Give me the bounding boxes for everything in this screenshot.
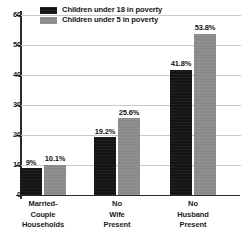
bar-under18-group2	[94, 137, 116, 195]
y-tick-label: 30	[7, 101, 21, 109]
legend: Children under 18 in poverty Children un…	[40, 6, 162, 26]
legend-swatch-icon-dark	[40, 7, 57, 14]
category-label-line: Households	[7, 220, 79, 231]
bar-under18-group1	[20, 168, 42, 195]
y-tick-label: 50	[7, 41, 21, 49]
bar-value-label: 41.8%	[171, 60, 191, 68]
category-label-line: Present	[81, 220, 153, 231]
bar-value-label: 25.6%	[119, 109, 139, 117]
bar-value-label: 19.2%	[95, 128, 115, 136]
y-tick-label: 0	[7, 191, 21, 199]
category-label-1: Married-CoupleHouseholds	[7, 199, 79, 231]
category-label-line: No	[157, 199, 229, 210]
category-label-line: Present	[157, 220, 229, 231]
legend-label-children-under-5: Children under 5 in poverty	[62, 16, 158, 25]
category-label-2: NoWifePresent	[81, 199, 153, 231]
legend-swatch-icon-light	[40, 17, 57, 24]
category-label-line: Married-	[7, 199, 79, 210]
bar-under5-group2	[118, 118, 140, 195]
category-label-line: Wife	[81, 210, 153, 221]
y-tick-label: 20	[7, 131, 21, 139]
category-label-line: No	[81, 199, 153, 210]
plot-area: 9%10.1%19.2%25.6%41.8%53.8%	[21, 15, 241, 195]
legend-item-children-under-18: Children under 18 in poverty	[40, 6, 162, 15]
legend-label-children-under-18: Children under 18 in poverty	[62, 6, 162, 15]
bar-under18-group3	[170, 70, 192, 195]
category-label-3: NoHusbandPresent	[157, 199, 229, 231]
bar-value-label: 10.1%	[45, 155, 65, 163]
category-label-line: Husband	[157, 210, 229, 221]
y-tick-label: 10	[7, 161, 21, 169]
bar-under5-group3	[194, 34, 216, 195]
y-tick-label: 40	[7, 71, 21, 79]
poverty-bar-chart: 0102030405060 9%10.1%19.2%25.6%41.8%53.8…	[0, 0, 245, 243]
bar-under5-group1	[44, 165, 66, 195]
bar-value-label: 53.8%	[195, 24, 215, 32]
legend-item-children-under-5: Children under 5 in poverty	[40, 16, 162, 25]
category-label-line: Couple	[7, 210, 79, 221]
y-tick-label: 60	[7, 11, 21, 19]
bar-value-label: 9%	[26, 159, 36, 167]
